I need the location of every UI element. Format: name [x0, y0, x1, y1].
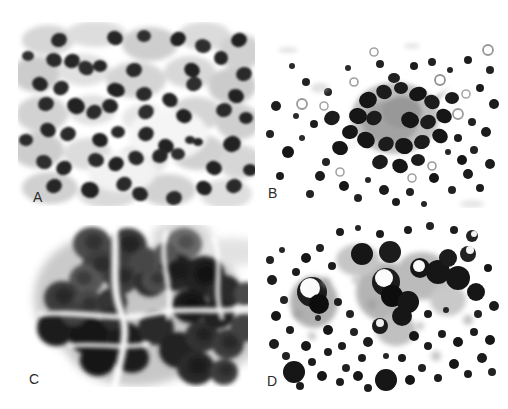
panel-label-c: C	[29, 372, 39, 386]
panel-d-image	[262, 210, 502, 396]
panel-a-svg	[18, 22, 255, 206]
panel-label-b: B	[268, 186, 277, 200]
panel-label-a: A	[33, 190, 42, 204]
micrograph-figure: A	[0, 0, 508, 409]
panel-label-d: D	[267, 374, 277, 388]
panel-b-svg	[262, 26, 502, 208]
panel-a-image	[18, 22, 255, 206]
panel-b-image	[262, 26, 502, 208]
panel-c-image	[18, 218, 255, 394]
panel-c-svg	[18, 218, 255, 394]
panel-d-svg	[262, 210, 502, 396]
